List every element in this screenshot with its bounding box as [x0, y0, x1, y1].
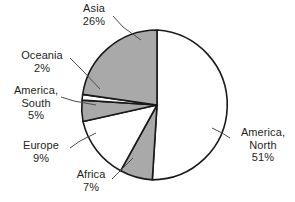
slice-label-asia: Asia 26% — [63, 2, 125, 27]
slice-label-america-south-value: 5% — [2, 109, 70, 122]
slice-label-america-south: America, South 5% — [2, 84, 70, 122]
slice-label-asia-name: Asia — [63, 2, 125, 15]
slice-label-europe-name: Europe — [10, 139, 72, 152]
slice-label-oceania-value: 2% — [6, 62, 78, 75]
slice-label-europe-value: 9% — [10, 152, 72, 165]
slice-label-america-north-name-line1: America, — [232, 126, 294, 139]
slice-label-europe: Europe 9% — [10, 139, 72, 164]
pie-chart-screenshot: Asia 26% Oceania 2% America, South 5% Eu… — [0, 0, 295, 202]
slice-label-oceania-name: Oceania — [6, 49, 78, 62]
slice-label-america-south-name-line2: South — [2, 97, 70, 110]
slice-label-america-north-value: 51% — [232, 151, 294, 164]
slice-label-africa-value: 7% — [62, 181, 120, 194]
slice-label-oceania: Oceania 2% — [6, 49, 78, 74]
slice-label-africa: Africa 7% — [62, 168, 120, 193]
slice-label-africa-name: Africa — [62, 168, 120, 181]
slice-label-america-north-name-line2: North — [232, 139, 294, 152]
pie-slice-asia — [83, 30, 157, 105]
slice-label-america-south-name-line1: America, — [2, 84, 70, 97]
pie-slice-america-north — [152, 30, 227, 180]
slice-label-asia-value: 26% — [63, 15, 125, 28]
slice-label-america-north: America, North 51% — [232, 126, 294, 164]
